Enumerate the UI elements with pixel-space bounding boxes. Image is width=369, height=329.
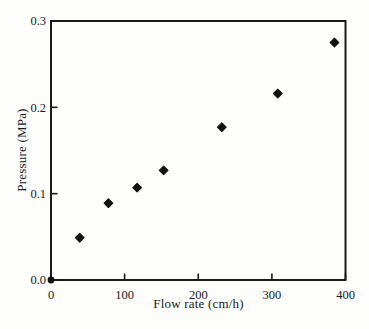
y-tick-label: 0.2 bbox=[30, 101, 46, 115]
data-point bbox=[273, 89, 282, 98]
y-tick-label: 0.3 bbox=[30, 14, 46, 28]
scatter-plot-figure: 01002003004000.00.10.20.3 Flow rate (cm/… bbox=[0, 0, 369, 329]
axes-box bbox=[51, 21, 346, 280]
y-tick-label: 0.1 bbox=[30, 187, 46, 201]
data-point bbox=[75, 233, 84, 242]
y-axis-label: Pressure (MPa) bbox=[14, 108, 30, 191]
y-tick-label: 0.0 bbox=[30, 273, 46, 287]
origin-data-point bbox=[48, 277, 55, 284]
data-point bbox=[159, 166, 168, 175]
data-point bbox=[330, 38, 339, 47]
data-point bbox=[218, 123, 227, 132]
data-point bbox=[104, 199, 113, 208]
x-axis-label: Flow rate (cm/h) bbox=[0, 296, 369, 312]
data-point bbox=[133, 183, 142, 192]
scatter-plot-canvas: 01002003004000.00.10.20.3 bbox=[0, 0, 369, 329]
